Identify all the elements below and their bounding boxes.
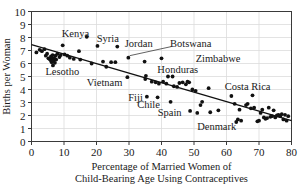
data-point: [144, 74, 148, 78]
data-point: [175, 85, 179, 89]
data-point: [154, 80, 158, 84]
data-point: [200, 100, 204, 104]
data-point: [199, 103, 203, 107]
data-point: [160, 56, 164, 60]
data-point: [126, 56, 130, 60]
data-point: [281, 118, 285, 122]
y-tick-label: 9: [20, 19, 26, 31]
data-point: [171, 75, 175, 79]
x-tick-label: 0: [29, 146, 35, 158]
data-point: [172, 84, 176, 88]
data-point: [104, 65, 108, 69]
data-point: [61, 43, 65, 47]
x-axis-title-line1: Percentage of Married Women of: [91, 161, 232, 172]
data-point: [169, 100, 173, 104]
data-point: [115, 45, 119, 49]
annotation-label-jordan: Jordan: [125, 38, 154, 49]
data-point: [68, 56, 72, 60]
data-point: [238, 108, 242, 112]
data-point: [246, 102, 250, 106]
y-tick-label: 6: [20, 58, 26, 70]
annotation-label-zimbabwe: Zimbabwe: [196, 53, 241, 64]
annotation-label-denmark: Denmark: [197, 121, 237, 132]
y-tick-label: 3: [20, 97, 26, 109]
data-point: [208, 110, 212, 114]
data-point: [101, 60, 105, 64]
data-point: [72, 57, 76, 61]
data-point: [166, 75, 170, 79]
data-point: [109, 60, 113, 64]
data-point: [125, 75, 129, 79]
annotation-label-kenya: Kenya: [62, 28, 90, 39]
data-point: [143, 60, 147, 64]
data-point: [56, 52, 60, 56]
data-point: [270, 114, 274, 118]
x-tick-label: 60: [221, 146, 233, 158]
x-tick-label: 70: [254, 146, 266, 158]
data-point: [272, 108, 276, 112]
data-point: [249, 106, 253, 110]
data-point: [34, 51, 38, 55]
data-point: [164, 82, 168, 86]
data-point: [143, 77, 147, 81]
data-point: [194, 89, 198, 93]
data-point: [236, 118, 240, 122]
data-point: [252, 106, 256, 110]
data-point: [157, 82, 161, 86]
y-tick-label: 10: [15, 6, 27, 18]
data-point: [251, 93, 255, 97]
x-tick-label: 30: [124, 146, 136, 158]
annotation-label-syria: Syria: [97, 33, 120, 44]
data-point: [77, 49, 81, 53]
data-point: [188, 109, 192, 113]
data-point: [216, 108, 220, 112]
x-tick-label: 50: [189, 146, 201, 158]
data-point: [257, 119, 261, 123]
data-point: [239, 119, 243, 123]
data-point: [53, 61, 57, 65]
data-point: [54, 58, 58, 62]
data-point: [177, 81, 181, 85]
x-tick-label: 40: [156, 146, 168, 158]
data-point: [283, 113, 287, 117]
data-point: [260, 108, 264, 112]
annotation-label-honduras: Honduras: [157, 64, 198, 75]
data-point: [181, 80, 185, 84]
y-tick-label: 2: [20, 110, 26, 122]
data-point: [286, 114, 290, 118]
data-point: [267, 106, 271, 110]
annotation-label-spain: Spain: [158, 107, 183, 118]
data-point: [285, 119, 289, 123]
y-tick-label: 1: [20, 123, 26, 135]
scatter-chart-figure: 01020304050607080012345678910 KenyaSyria…: [0, 0, 300, 186]
y-tick-label: 0: [20, 136, 26, 148]
y-axis-title: Births per Woman: [1, 37, 12, 114]
y-tick-label: 7: [20, 45, 26, 57]
data-point: [113, 60, 117, 64]
data-point: [43, 47, 47, 51]
annotation-label-vietnam: Vietnam: [87, 77, 123, 88]
y-tick-label: 8: [20, 32, 26, 44]
data-point: [45, 52, 49, 56]
data-point: [229, 94, 233, 98]
x-tick-label: 10: [59, 146, 71, 158]
data-point: [78, 58, 82, 62]
y-tick-label: 5: [20, 71, 26, 83]
data-point: [96, 44, 100, 48]
data-point: [280, 112, 284, 116]
data-point: [233, 102, 237, 106]
x-axis-title-line2: Child-Bearing Age Using Contraceptives: [75, 173, 248, 184]
x-tick-label: 20: [91, 146, 103, 158]
annotation-label-costa-rica: Costa Rica: [225, 81, 271, 92]
data-point: [187, 80, 191, 84]
data-point: [265, 116, 269, 120]
annotation-label-lesotho: Lesotho: [45, 66, 79, 77]
annotation-labels-layer: KenyaSyriaJordanBotswanaZimbabweHonduras…: [45, 28, 270, 132]
data-point: [207, 86, 211, 90]
y-tick-label: 4: [20, 84, 26, 96]
data-point: [150, 80, 154, 84]
data-point: [259, 111, 263, 115]
x-tick-label: 80: [286, 146, 298, 158]
data-point: [190, 88, 194, 92]
annotation-label-botswana: Botswana: [170, 38, 212, 49]
